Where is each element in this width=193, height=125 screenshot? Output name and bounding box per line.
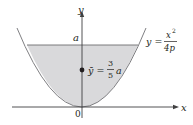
- shaded-region: [27, 45, 138, 107]
- curve-label-numerator: x: [166, 30, 171, 40]
- centroid-label-lhs: ȳ =: [87, 65, 104, 76]
- parabola-diagram: y x 0 a ȳ = 3 5 a y = x 2 4p: [0, 0, 193, 125]
- centroid-label-denominator: 5: [108, 71, 113, 80]
- centroid-dot: [80, 68, 85, 73]
- centroid-label-rhs: a: [116, 65, 122, 76]
- x-axis-arrow-icon: [173, 105, 179, 109]
- y-axis-label: y: [77, 4, 84, 15]
- centroid-label-numerator: 3: [108, 59, 113, 68]
- curve-label-lhs: y =: [145, 36, 162, 47]
- curve-label-exponent: 2: [172, 27, 176, 34]
- origin-label: 0: [75, 109, 81, 119]
- x-axis-label: x: [181, 102, 187, 113]
- curve-label-denominator: 4p: [163, 43, 175, 53]
- level-label-a: a: [73, 32, 79, 43]
